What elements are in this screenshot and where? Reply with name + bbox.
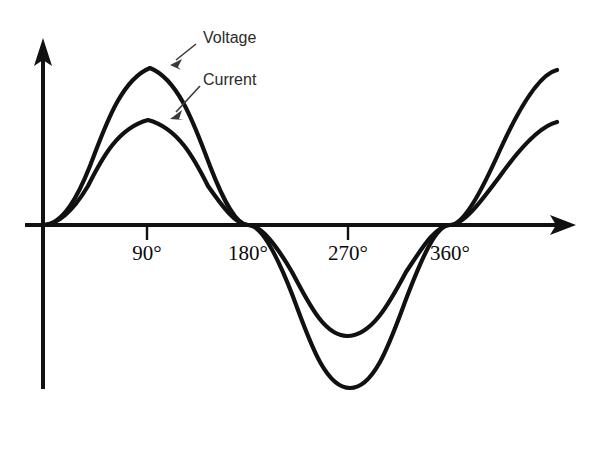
voltage-label: Voltage bbox=[203, 30, 256, 46]
tick-label-360: 360° bbox=[430, 243, 470, 264]
voltage-curve bbox=[43, 68, 557, 388]
tick-label-270: 270° bbox=[328, 243, 368, 264]
voltage-leader-arrowhead bbox=[170, 59, 182, 70]
voltage-leader-line bbox=[176, 44, 196, 60]
waveform-plot bbox=[0, 0, 590, 455]
axis-ticks bbox=[147, 226, 348, 240]
voltage-leader bbox=[170, 44, 196, 70]
vertical-axis bbox=[34, 38, 52, 389]
current-curve bbox=[43, 120, 557, 336]
current-label: Current bbox=[203, 72, 256, 88]
horizontal-axis bbox=[25, 215, 576, 235]
tick-label-90: 90° bbox=[132, 243, 161, 264]
tick-label-180: 180° bbox=[228, 243, 268, 264]
waveform-figure: 90° 180° 270° 360° Voltage Current bbox=[0, 0, 590, 455]
